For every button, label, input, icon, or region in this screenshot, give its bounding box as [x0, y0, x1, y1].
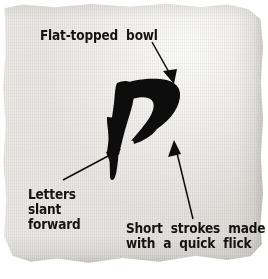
annotation-label-flat-topped-bowl: Flat-topped bowl	[40, 28, 158, 43]
annotation-label-letters-slant-forward: Letters slant forward	[28, 187, 80, 232]
annotated-calligraphy-figure: Flat-topped bowl Letters slant forward S…	[0, 0, 268, 279]
annotation-label-short-strokes: Short strokes made with a quick flick	[126, 221, 265, 251]
